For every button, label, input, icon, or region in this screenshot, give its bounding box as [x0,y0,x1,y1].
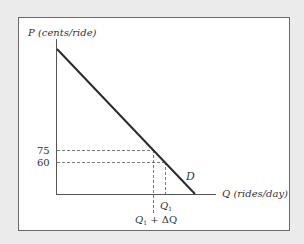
demand-curve [57,49,195,194]
y-tick-75: 75 [37,145,50,156]
y-axis-label: P (cents/ride) [27,27,97,38]
x-axis-label: Q (rides/day) [222,188,288,199]
curve-label-d: D [185,170,195,183]
demand-chart: P (cents/ride) Q (rides/day) 75 60 D Q1 … [0,0,304,244]
x-tick-q1-plus-dq: Q1 + ΔQ [135,214,177,226]
x-tick-q1: Q1 [160,200,172,212]
y-tick-60: 60 [37,157,50,168]
